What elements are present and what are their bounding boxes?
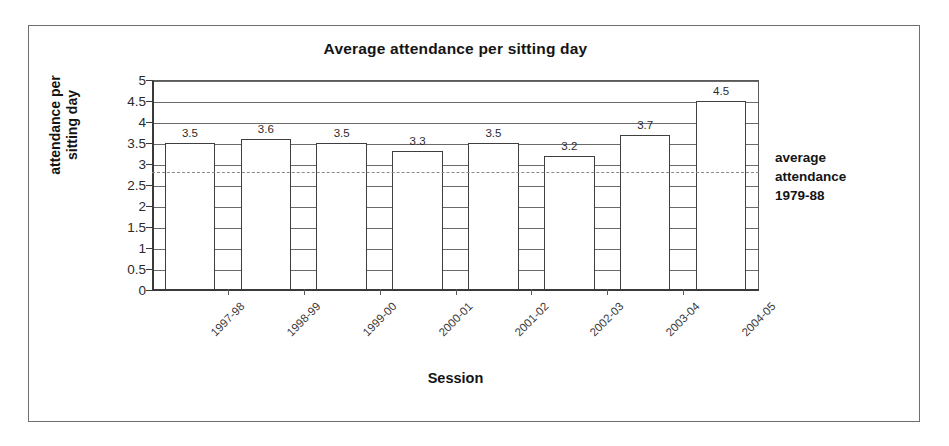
chart-title: Average attendance per sitting day — [152, 40, 759, 58]
bar-slot: 3.6 — [241, 80, 291, 290]
bar-2004-05[interactable] — [696, 101, 746, 290]
y-tick-label-1: 1 — [138, 241, 146, 256]
y-axis-tick-labels: 54.543.532.521.510.50 — [108, 80, 146, 290]
bar-value-label-2001-02: 3.5 — [454, 127, 532, 139]
y-axis-title-line-1: attendance per — [47, 75, 63, 175]
bar-slot: 3.5 — [468, 80, 518, 290]
x-tick-mark-1999-00 — [304, 289, 305, 295]
bar-2003-04[interactable] — [620, 135, 670, 290]
bar-2001-02[interactable] — [468, 143, 518, 290]
bar-value-label-2002-03: 3.2 — [530, 140, 608, 152]
bar-1998-99[interactable] — [241, 139, 291, 290]
y-tick-label-4.5: 4.5 — [127, 94, 146, 109]
bar-value-label-2003-04: 3.7 — [606, 119, 684, 131]
bar-slot: 3.2 — [544, 80, 594, 290]
y-axis-title-line-2: sitting day — [64, 90, 80, 160]
average-attendance-reference-line — [152, 172, 759, 173]
y-axis-title: attendance per sitting day — [47, 38, 81, 213]
x-tick-mark-2003-04 — [607, 289, 608, 295]
y-tick-label-4: 4 — [138, 115, 146, 130]
x-tick-mark-1998-99 — [228, 289, 229, 295]
bar-slot: 3.5 — [165, 80, 215, 290]
legend: average attendance 1979-88 — [775, 148, 895, 205]
y-tick-label-0: 0 — [138, 283, 146, 298]
bar-slot: 3.7 — [620, 80, 670, 290]
y-tick-label-3: 3 — [138, 157, 146, 172]
legend-label-line-3: 1979-88 — [775, 186, 895, 205]
x-tick-mark-2000-01 — [380, 289, 381, 295]
legend-label-line-2: attendance — [775, 167, 895, 186]
bars-layer: 3.53.63.53.33.53.23.74.5 — [152, 80, 759, 290]
bar-slot: 4.5 — [696, 80, 746, 290]
y-tick-label-1.5: 1.5 — [127, 220, 146, 235]
y-tick-label-3.5: 3.5 — [127, 136, 146, 151]
y-tick-label-2.5: 2.5 — [127, 178, 146, 193]
y-tick-label-0.5: 0.5 — [127, 262, 146, 277]
y-tick-label-5: 5 — [138, 73, 146, 88]
bar-slot: 3.5 — [316, 80, 366, 290]
bar-1997-98[interactable] — [165, 143, 215, 290]
bar-1999-00[interactable] — [316, 143, 366, 290]
x-tick-mark-2001-02 — [456, 289, 457, 295]
bar-2002-03[interactable] — [544, 156, 594, 290]
legend-label-line-1: average — [775, 148, 895, 167]
y-tick-label-2: 2 — [138, 199, 146, 214]
x-tick-mark-2002-03 — [531, 289, 532, 295]
bar-value-label-2004-05: 4.5 — [682, 85, 760, 97]
bar-slot: 3.3 — [392, 80, 442, 290]
x-tick-mark-2004-05 — [683, 289, 684, 295]
bar-value-label-2000-01: 3.3 — [378, 135, 456, 147]
bar-value-label-1999-00: 3.5 — [302, 127, 380, 139]
chart-figure: Average attendance per sitting day atten… — [0, 0, 949, 446]
bar-value-label-1997-98: 3.5 — [151, 127, 229, 139]
x-axis-title: Session — [152, 370, 759, 386]
bar-value-label-1998-99: 3.6 — [227, 123, 305, 135]
